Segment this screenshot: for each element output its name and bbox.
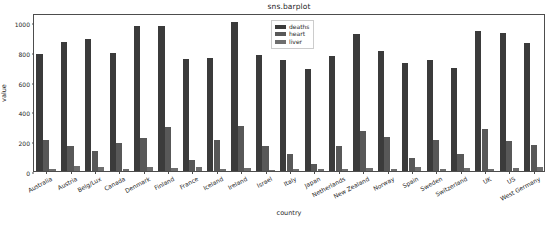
bar-group [427,15,447,171]
bar-group [36,15,56,171]
bar-heart [457,154,463,171]
bar-deaths [475,31,481,171]
x-tick-mark [339,171,340,174]
bar-deaths [305,69,311,171]
bar-liver [513,168,519,171]
chart-title: sns.barplot [33,2,545,11]
bar-liver [269,170,275,171]
x-tick-mark [119,171,120,174]
bar-liver [220,169,226,171]
chart-legend: deaths heart liver [271,20,314,49]
x-tick-mark [461,171,462,174]
bar-liver [318,169,324,171]
legend-item-liver: liver [275,39,309,45]
x-tick-mark [217,171,218,174]
x-tick-label: Austria [56,175,78,191]
bar-deaths [110,53,116,171]
y-tick-mark [32,23,35,24]
bar-liver [366,168,372,171]
bar-deaths [378,51,384,171]
bar-heart [336,146,342,171]
x-tick-mark [168,171,169,174]
x-tick-label: Belg/Lux [76,175,102,193]
x-tick-mark [363,171,364,174]
x-tick-mark [192,171,193,174]
bar-heart [214,140,220,171]
x-tick-label: Norway [371,175,394,192]
bar-group [378,15,398,171]
bar-deaths [231,22,237,171]
bar-group [402,15,422,171]
bar-heart [238,126,244,171]
x-tick-mark [412,171,413,174]
x-tick-mark [95,171,96,174]
x-tick-label: Ireland [227,175,249,191]
bar-liver [74,166,80,171]
x-tick-label: Spain [401,175,419,189]
bar-deaths [451,68,457,171]
x-tick-mark [509,171,510,174]
bar-group [134,15,154,171]
x-tick-label: Iceland [202,175,224,191]
bar-deaths [402,63,408,171]
bar-heart [165,127,171,171]
legend-label-heart: heart [289,31,305,37]
bar-heart [482,129,488,171]
bar-deaths [134,26,140,171]
bar-heart [287,154,293,171]
bar-deaths [85,39,91,171]
x-tick-mark [241,171,242,174]
bar-deaths [256,55,262,171]
x-tick-label: Israel [255,175,273,189]
legend-label-deaths: deaths [289,24,309,30]
bar-group [451,15,471,171]
bar-heart [506,141,512,171]
bar-liver [171,168,177,171]
bar-group [158,15,178,171]
bar-heart [360,131,366,171]
bar-deaths [500,33,506,171]
bar-liver [123,169,129,171]
legend-item-deaths: deaths [275,24,309,30]
bar-group [207,15,227,171]
bar-heart [140,138,146,171]
bar-group [353,15,373,171]
bar-liver [391,169,397,171]
bar-group [61,15,81,171]
x-tick-label: Canada [103,175,126,192]
bar-liver [293,169,299,171]
bar-heart [262,146,268,171]
bar-heart [116,143,122,171]
x-tick-label: Australia [27,175,54,194]
bar-heart [531,145,537,171]
legend-swatch-liver [275,40,286,44]
x-axis-label: country [33,209,545,217]
x-tick-mark [290,171,291,174]
bar-heart [189,160,195,171]
bar-deaths [61,42,67,171]
chart-figure: sns.barplot value country 02004006008001… [0,0,554,229]
x-tick-mark [388,171,389,174]
x-tick-label: Denmark [123,175,151,194]
x-tick-mark [314,171,315,174]
bar-liver [49,169,55,171]
bar-deaths [158,26,164,171]
legend-swatch-heart [275,32,286,36]
bar-liver [464,168,470,171]
bar-deaths [353,34,359,171]
bar-deaths [207,58,213,171]
legend-swatch-deaths [275,25,286,29]
bar-deaths [36,54,42,171]
x-tick-mark [485,171,486,174]
y-tick-mark [32,143,35,144]
y-tick-mark [32,173,35,174]
x-tick-mark [46,171,47,174]
bar-deaths [524,43,530,171]
bar-liver [415,167,421,171]
bar-heart [43,140,49,171]
bar-group [524,15,544,171]
bar-heart [92,151,98,171]
x-tick-label: Finland [153,175,175,191]
bar-liver [147,167,153,171]
bar-liver [537,167,543,171]
